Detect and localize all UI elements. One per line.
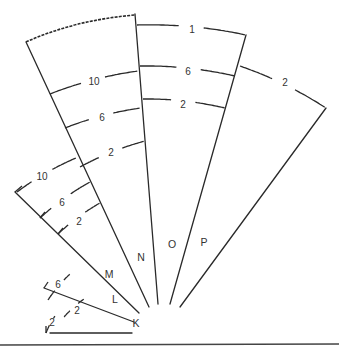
sector-label-k: K — [132, 317, 139, 329]
sector-fan-diagram: 226261026102612KLMNOP — [0, 0, 339, 353]
arc-label: 2 — [108, 147, 114, 158]
sector-label-n: N — [137, 251, 145, 263]
arc-label: 6 — [59, 197, 65, 208]
arc-n-outer-dashed — [26, 15, 135, 42]
arc-label: 10 — [36, 171, 48, 182]
arc-label: 2 — [180, 99, 186, 110]
arc-label: 2 — [74, 305, 80, 316]
arc-label: 2 — [76, 216, 82, 227]
ray-k-l — [44, 288, 134, 322]
arc-m-6 — [40, 182, 90, 218]
ray-l-m — [15, 192, 139, 313]
arc-label: 6 — [55, 279, 61, 290]
arc-label: 1 — [189, 24, 195, 35]
arc-end-tick — [44, 282, 48, 288]
arc-end-tick — [58, 228, 63, 234]
arc-label: 6 — [185, 66, 191, 77]
arc-label: 6 — [99, 112, 105, 123]
arc-label: 2 — [49, 317, 55, 328]
sector-label-o: O — [168, 238, 176, 250]
sector-label-l: L — [112, 293, 118, 305]
sector-label-m: M — [105, 268, 114, 280]
arc-label: 2 — [282, 77, 288, 88]
ray-p-right — [180, 108, 326, 307]
bottom-rule — [0, 344, 339, 345]
arc-label: 10 — [88, 76, 100, 87]
sector-boundary-rays — [15, 14, 326, 333]
sector-label-p: P — [200, 236, 207, 248]
